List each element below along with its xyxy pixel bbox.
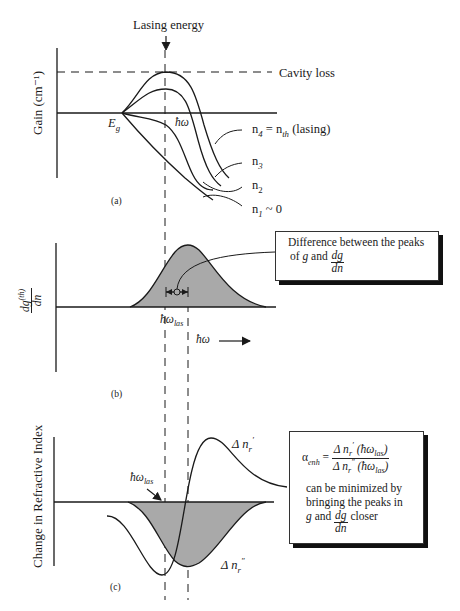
panel-c-caption: (c) <box>110 582 121 592</box>
formula-text-line-2: bringing the peaks in <box>306 496 403 508</box>
panel-b-graph <box>56 243 276 372</box>
callout-line-2: of g and dgdn <box>290 250 344 274</box>
peak-difference-callout-box: Difference between the peaks of g and dg… <box>275 231 439 281</box>
band-gap-label: Eg <box>108 116 120 133</box>
curve-label-n1: n1 ~ 0 <box>252 202 282 219</box>
panel-b-caption: (b) <box>111 389 122 399</box>
refractive-index-axis-label: Change in Refractive Index <box>30 425 46 568</box>
imag-shaded-area <box>128 502 266 567</box>
formula-text-line-1: can be minimized by <box>306 482 402 494</box>
dgdn-axis-label: dg(th)dn <box>18 288 44 313</box>
formula-text-line-3: g and dgdn closer <box>306 510 378 534</box>
alpha-enh-formula: αenh = Δ nr′ (ħωlas)Δ nr″ (ħωlas) <box>302 442 389 475</box>
curve-label-n3: n3 <box>252 154 263 171</box>
hw-las-pointer-arrow-icon <box>147 489 161 500</box>
cavity-loss-label: Cavity loss <box>279 66 335 81</box>
gain-axis-label: Gain (cm⁻¹) <box>30 71 46 135</box>
hw-las-label-c: ħωlas <box>130 471 153 486</box>
gain-curve-n3 <box>122 89 221 186</box>
gain-curve-n2 <box>122 113 213 190</box>
curve-label-n4: n4 = nth (lasing) <box>252 122 330 139</box>
lasing-energy-label: Lasing energy <box>133 18 204 33</box>
leader-n4 <box>215 130 242 144</box>
delta-n-prime-label: Δ nr′ <box>232 435 254 454</box>
hw-las-label-b: ħωlas <box>160 313 183 328</box>
delta-n-double-prime-label: Δ nr″ <box>221 556 245 575</box>
curve-label-n2: n2 <box>252 178 263 195</box>
hw-axis-label-b: ħω <box>196 333 210 345</box>
alpha-enh-formula-box: αenh = Δ nr′ (ħωlas)Δ nr″ (ħωlas) can be… <box>289 431 424 544</box>
panel-c-graph <box>54 437 287 575</box>
panel-a-caption: (a) <box>111 196 122 206</box>
callout-line-1: Difference between the peaks <box>288 236 424 248</box>
hw-label-a: ħω <box>175 116 189 128</box>
